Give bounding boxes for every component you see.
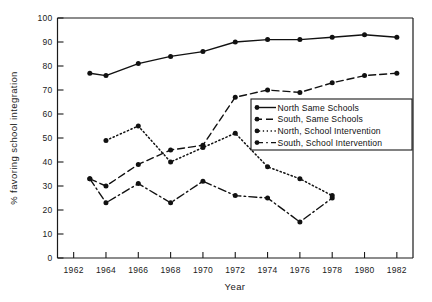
series-line-0: [90, 35, 397, 76]
x-tick-label: 1976: [290, 265, 310, 275]
series-0: [87, 32, 399, 78]
data-point: [265, 196, 270, 201]
y-tick-label: 20: [42, 205, 52, 215]
y-tick-label: 60: [42, 109, 52, 119]
chart-container: % favoring school integration 0102030405…: [0, 0, 432, 302]
y-tick-label: 90: [42, 37, 52, 47]
y-tick-label: 40: [42, 157, 52, 167]
x-tick-label: 1962: [64, 265, 84, 275]
x-tick-label: 1972: [225, 265, 245, 275]
data-point: [87, 71, 92, 76]
y-axis-ticks: [58, 18, 64, 258]
data-point: [297, 37, 302, 42]
data-point: [103, 73, 108, 78]
data-point: [233, 95, 238, 100]
x-axis-ticks: [74, 252, 397, 258]
x-tick-label: 1974: [258, 265, 278, 275]
x-axis-tick-labels: 1962196419661968197019721974197619781980…: [64, 265, 407, 275]
legend-marker: [255, 117, 260, 122]
data-point: [265, 37, 270, 42]
data-point: [168, 160, 173, 165]
x-axis: 1962196419661968197019721974197619781980…: [58, 252, 414, 292]
data-point: [136, 61, 141, 66]
legend-item-label: South, Same Schools: [278, 114, 364, 124]
legend-item-label: North Same Schools: [278, 103, 360, 113]
data-point: [330, 196, 335, 201]
data-point: [297, 90, 302, 95]
data-point: [200, 49, 205, 54]
data-point: [233, 131, 238, 136]
y-tick-label: 70: [42, 85, 52, 95]
x-tick-label: 1982: [387, 265, 407, 275]
legend-marker: [255, 105, 260, 110]
x-axis-title: Year: [225, 281, 246, 292]
data-point: [103, 184, 108, 189]
data-point: [200, 145, 205, 150]
data-point: [297, 220, 302, 225]
data-point: [362, 73, 367, 78]
y-tick-label: 100: [37, 13, 52, 23]
data-point: [136, 124, 141, 129]
data-point: [103, 138, 108, 143]
x-tick-label: 1970: [193, 265, 213, 275]
y-axis: 0102030405060708090100: [37, 13, 63, 263]
data-point: [394, 35, 399, 40]
y-tick-label: 50: [42, 133, 52, 143]
legend-item-label: North, School Intervention: [278, 126, 381, 136]
data-point: [168, 200, 173, 205]
y-tick-label: 10: [42, 229, 52, 239]
y-tick-label: 80: [42, 61, 52, 71]
data-point: [168, 54, 173, 59]
series-3: [87, 176, 334, 224]
data-point: [136, 181, 141, 186]
data-point: [233, 40, 238, 45]
data-point: [233, 193, 238, 198]
chart-legend: North Same SchoolsSouth, Same SchoolsNor…: [251, 99, 412, 150]
data-point: [362, 32, 367, 37]
series-line-3: [90, 179, 332, 222]
y-axis-title: % favoring school integration: [8, 71, 19, 205]
x-tick-label: 1964: [96, 265, 116, 275]
x-tick-label: 1968: [161, 265, 181, 275]
y-tick-label: 0: [47, 253, 52, 263]
data-point: [87, 176, 92, 181]
legend-marker: [255, 129, 260, 134]
legend-marker: [255, 140, 260, 145]
y-tick-label: 30: [42, 181, 52, 191]
data-point: [136, 162, 141, 167]
data-point: [297, 176, 302, 181]
legend-item-label: South, School Intervention: [278, 138, 383, 148]
data-point: [265, 164, 270, 169]
data-point: [330, 80, 335, 85]
y-axis-tick-labels: 0102030405060708090100: [37, 13, 52, 263]
data-point: [103, 200, 108, 205]
data-point: [330, 35, 335, 40]
x-tick-label: 1980: [354, 265, 374, 275]
data-point: [200, 179, 205, 184]
x-tick-label: 1978: [322, 265, 342, 275]
data-point: [265, 88, 270, 93]
data-point: [168, 148, 173, 153]
x-tick-label: 1966: [128, 265, 148, 275]
line-chart-svg: % favoring school integration 0102030405…: [0, 0, 432, 302]
data-point: [394, 71, 399, 76]
